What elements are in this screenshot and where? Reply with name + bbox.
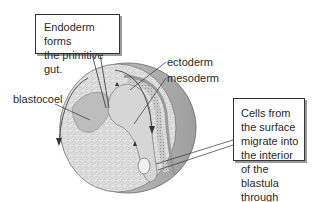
label-ectoderm: ectoderm [167, 56, 213, 69]
callout-cells-line-1: Cells from the surface [241, 106, 304, 134]
label-blastocoel: blastocoel [13, 93, 63, 106]
callout-cells-line-2: migrate into the interior [241, 134, 304, 162]
label-mesoderm: mesoderm [167, 72, 219, 85]
callout-endoderm-line-1: Endoderm forms [44, 20, 119, 48]
callout-cells-migrate: Cells from the surface migrate into the … [233, 98, 305, 161]
blastopore [138, 158, 150, 174]
callout-endoderm: Endoderm forms the primitive gut. [35, 14, 120, 54]
callout-cells-line-3: of the blastula through [241, 162, 304, 202]
callout-endoderm-line-2: the primitive gut. [44, 48, 119, 76]
